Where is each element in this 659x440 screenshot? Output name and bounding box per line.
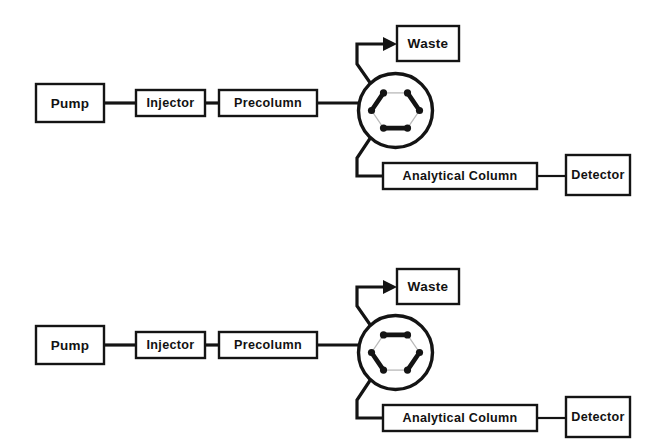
diagram-bottom: Pump Injector Precolumn Waste Analytical… — [36, 269, 630, 437]
analytical-column-label: Analytical Column — [403, 169, 518, 183]
valve-port-lower-left — [380, 125, 387, 132]
box-detector-2: Detector — [566, 397, 630, 437]
diagram-canvas: Pump Injector Precolumn Waste Analytical… — [0, 0, 659, 440]
valve-port-lower-right-2 — [404, 367, 411, 374]
valve-port-lower-left-2 — [380, 367, 387, 374]
detector-label: Detector — [571, 168, 625, 182]
box-precolumn-2: Precolumn — [219, 332, 317, 358]
waste-arrow-icon-2 — [383, 280, 397, 294]
precolumn-label-2: Precolumn — [234, 338, 302, 352]
pump-label-2: Pump — [51, 338, 90, 353]
injector-label-2: Injector — [147, 338, 195, 352]
valve-port-left-2 — [368, 349, 375, 356]
waste-arrow-icon — [383, 37, 397, 51]
box-injector: Injector — [136, 90, 205, 116]
diagram-top: Pump Injector Precolumn Waste Analytical… — [36, 26, 630, 195]
waste-label: Waste — [408, 36, 449, 51]
valve-port-right — [416, 107, 423, 114]
valve-port-right-2 — [416, 349, 423, 356]
box-waste-2: Waste — [397, 269, 459, 304]
box-analytical-column-2: Analytical Column — [383, 405, 537, 431]
waste-label-2: Waste — [408, 279, 449, 294]
valve-port-lower-right — [404, 125, 411, 132]
box-waste: Waste — [397, 26, 459, 61]
detector-label-2: Detector — [571, 410, 625, 424]
precolumn-label: Precolumn — [234, 96, 302, 110]
switching-valve-bottom — [359, 316, 433, 390]
box-injector-2: Injector — [136, 332, 205, 358]
box-detector: Detector — [566, 155, 630, 195]
analytical-column-label-2: Analytical Column — [403, 411, 518, 425]
box-analytical-column: Analytical Column — [383, 163, 537, 189]
box-pump: Pump — [36, 84, 104, 122]
box-precolumn: Precolumn — [219, 90, 317, 116]
switching-valve-top — [359, 74, 433, 148]
valve-port-left — [368, 107, 375, 114]
pump-label: Pump — [51, 96, 90, 111]
valve-port-upper-left-2 — [380, 331, 387, 338]
box-pump-2: Pump — [36, 326, 104, 364]
valve-port-upper-right-2 — [404, 331, 411, 338]
flow-schematic-svg: Pump Injector Precolumn Waste Analytical… — [0, 0, 659, 440]
injector-label: Injector — [147, 96, 195, 110]
valve-port-upper-left — [380, 89, 387, 96]
valve-port-upper-right — [404, 89, 411, 96]
